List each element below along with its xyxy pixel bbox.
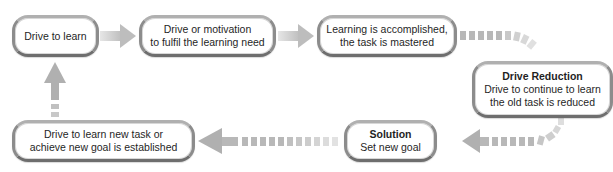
arrow-motivation-to-accomplished bbox=[278, 24, 314, 48]
arrow-accomplished-to-reduction bbox=[460, 31, 537, 50]
node-drive-or-motivation: Drive or motivation to fulfil the learni… bbox=[139, 15, 276, 57]
arrow-new-drive-to-drive bbox=[44, 62, 66, 117]
node-text-line-1: Drive to learn new task or bbox=[44, 128, 163, 141]
node-text-line-2: achieve new goal is established bbox=[30, 141, 178, 154]
node-title: Solution bbox=[370, 128, 412, 141]
node-drive-to-learn: Drive to learn bbox=[12, 15, 99, 57]
node-solution: Solution Set new goal bbox=[344, 120, 437, 162]
node-drive-reduction: Drive Reduction Drive to continue to lea… bbox=[472, 61, 613, 118]
node-title: Drive Reduction bbox=[502, 70, 583, 83]
node-text-line-2: the task is mastered bbox=[340, 36, 434, 49]
node-learning-accomplished: Learning is accomplished, the task is ma… bbox=[317, 15, 457, 57]
node-text-line-1: Drive or motivation bbox=[164, 23, 252, 36]
arrow-drive-to-motivation bbox=[100, 24, 136, 48]
node-text-line-1: Set new goal bbox=[360, 141, 421, 154]
arrow-reduction-to-solution bbox=[462, 118, 564, 153]
node-new-drive-established: Drive to learn new task or achieve new g… bbox=[12, 120, 195, 162]
node-text-line-2: the old task is reduced bbox=[490, 96, 595, 109]
node-text-line-1: Drive to continue to learn bbox=[484, 83, 601, 96]
node-text-line-1: Learning is accomplished, bbox=[326, 23, 447, 36]
node-text: Drive to learn bbox=[24, 30, 86, 43]
arrow-solution-to-new-drive bbox=[198, 128, 338, 154]
node-text-line-2: to fulfil the learning need bbox=[150, 36, 264, 49]
